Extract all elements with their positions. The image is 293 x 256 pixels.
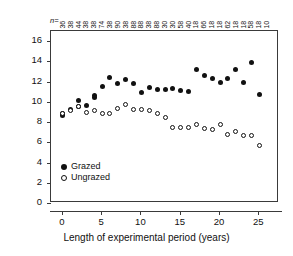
open-circle-icon (61, 175, 67, 181)
x-axis-line (50, 211, 282, 212)
sample-size-value: 36 (59, 21, 66, 28)
y-axis-tick-label: 10 (24, 96, 42, 106)
data-point-grazed (155, 87, 160, 92)
legend: Grazed Ungrazed (61, 161, 110, 183)
x-axis-tick (101, 211, 102, 215)
sample-size-prefix-label: n= (50, 16, 59, 25)
sample-size-value: 88 (137, 21, 144, 28)
y-axis-tick (47, 102, 51, 103)
y-axis-tick (47, 142, 51, 143)
data-point-ungrazed (123, 102, 128, 107)
data-point-ungrazed (131, 107, 136, 112)
x-axis-tick-label: 0 (50, 217, 74, 227)
x-axis-tick (258, 211, 259, 215)
data-point-ungrazed (257, 143, 262, 148)
data-point-grazed (170, 86, 175, 91)
y-axis-tick-label: 14 (24, 55, 42, 65)
data-point-grazed (107, 75, 112, 80)
sample-size-value: 62 (224, 21, 231, 28)
sample-size-value: 18 (232, 21, 239, 28)
sample-size-value: 30 (161, 21, 168, 28)
data-point-grazed (84, 103, 89, 108)
y-axis-tick-label: 16 (24, 35, 42, 45)
data-point-grazed (76, 98, 81, 103)
x-axis-tick (180, 211, 181, 215)
sample-size-value: 74 (98, 21, 105, 28)
sample-size-value: 18 (255, 21, 262, 28)
data-point-grazed (123, 77, 128, 82)
data-point-grazed (115, 81, 120, 86)
y-axis-tick (47, 41, 51, 42)
data-point-ungrazed (107, 111, 112, 116)
data-point-grazed (202, 73, 207, 78)
sample-size-value: 88 (153, 21, 160, 28)
data-point-grazed (139, 90, 144, 95)
data-point-grazed (225, 76, 230, 81)
data-point-grazed (186, 89, 191, 94)
data-point-ungrazed (218, 122, 223, 127)
sample-size-value: 58 (247, 21, 254, 28)
sample-size-row: n= 3638443838743890388888388830305840186… (0, 0, 293, 30)
data-point-ungrazed (225, 132, 230, 137)
legend-label-grazed: Grazed (71, 161, 101, 172)
data-point-grazed (210, 76, 215, 81)
legend-item-ungrazed: Ungrazed (61, 172, 110, 183)
y-axis-tick-label: 6 (24, 136, 42, 146)
data-point-grazed (163, 87, 168, 92)
data-point-ungrazed (139, 107, 144, 112)
sample-size-value: 88 (130, 21, 137, 28)
x-axis-tick (140, 211, 141, 215)
x-axis-tick (62, 211, 63, 215)
data-point-ungrazed (76, 104, 81, 109)
sample-size-value: 38 (67, 21, 74, 28)
data-point-ungrazed (178, 125, 183, 130)
data-point-grazed (100, 84, 105, 89)
data-point-ungrazed (210, 127, 215, 132)
y-axis-tick-label: 2 (24, 177, 42, 187)
y-axis-tick (47, 61, 51, 62)
data-point-grazed (92, 95, 97, 100)
sample-size-value: 10 (263, 21, 270, 28)
x-axis-tick-label: 15 (168, 217, 192, 227)
data-point-grazed (147, 85, 152, 90)
data-point-ungrazed (100, 111, 105, 116)
y-axis-tick-label: 12 (24, 76, 42, 86)
y-axis-tick (47, 82, 51, 83)
y-axis-tick (47, 163, 51, 164)
figure-panel: n= 3638443838743890388888388830305840186… (0, 0, 293, 256)
x-axis-title: Length of experimental period (years) (0, 232, 293, 243)
sample-size-value: 38 (106, 21, 113, 28)
data-point-ungrazed (241, 133, 246, 138)
y-axis-tick (47, 122, 51, 123)
sample-size-value: 18 (216, 21, 223, 28)
data-point-ungrazed (233, 129, 238, 134)
legend-label-ungrazed: Ungrazed (71, 172, 110, 183)
x-axis-tick-label: 5 (89, 217, 113, 227)
x-axis-tick-label: 20 (207, 217, 231, 227)
data-point-grazed (178, 88, 183, 93)
y-axis-tick-label: 8 (24, 116, 42, 126)
sample-size-value: 18 (208, 21, 215, 28)
data-point-grazed (218, 80, 223, 85)
data-point-ungrazed (68, 108, 73, 113)
sample-size-value: 38 (145, 21, 152, 28)
sample-size-value: 18 (240, 21, 247, 28)
data-point-ungrazed (92, 108, 97, 113)
data-point-ungrazed (115, 106, 120, 111)
data-point-ungrazed (249, 133, 254, 138)
data-point-grazed (249, 60, 254, 65)
data-point-ungrazed (170, 125, 175, 130)
x-axis-tick (219, 211, 220, 215)
data-point-ungrazed (186, 125, 191, 130)
data-point-grazed (241, 80, 246, 85)
y-axis-tick-label: 4 (24, 157, 42, 167)
sample-size-value: 90 (114, 21, 121, 28)
y-axis-tick (47, 183, 51, 184)
legend-item-grazed: Grazed (61, 161, 110, 172)
data-point-ungrazed (147, 108, 152, 113)
x-axis-tick-label: 10 (128, 217, 152, 227)
data-point-ungrazed (202, 126, 207, 131)
data-point-grazed (257, 92, 262, 97)
data-point-grazed (233, 67, 238, 72)
y-axis-tick (47, 203, 51, 204)
